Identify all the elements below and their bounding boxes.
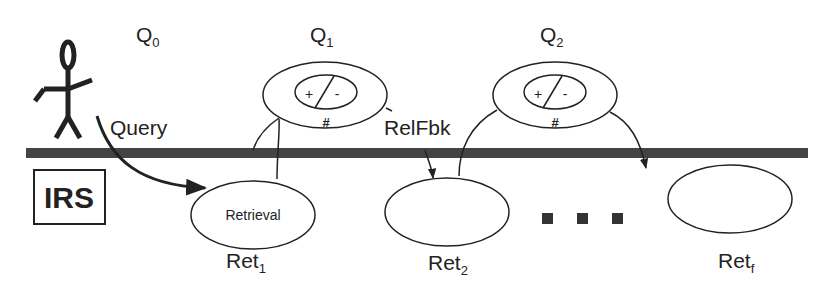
connector-ret2-to-q2	[459, 110, 497, 176]
stick-figure-user-icon	[35, 42, 92, 138]
svg-text:Retrieval: Retrieval	[225, 207, 280, 223]
feedback-node-1: + - #	[263, 62, 387, 130]
query-label-q0: Q0	[136, 23, 160, 50]
ret-label-1: Ret1	[226, 249, 266, 276]
svg-text:-: -	[335, 86, 340, 102]
svg-text:#: #	[551, 115, 559, 130]
feedback-node-2: + - #	[493, 62, 617, 130]
irs-label: IRS	[44, 181, 94, 214]
diagram-canvas: Q0 Q1 Q2 Query IRS + - # + - # RelFbk	[0, 0, 831, 290]
ret-label-f: Retf	[718, 249, 755, 276]
svg-text:Q2: Q2	[540, 23, 564, 50]
svg-text:Retf: Retf	[718, 249, 755, 276]
connector-ret1-to-q1-upper	[253, 118, 279, 150]
query-edge-label: Query	[110, 116, 168, 139]
retrieval-node-2	[385, 178, 509, 246]
relfbk-edge-label: RelFbk	[384, 116, 451, 139]
ret-label-2: Ret2	[428, 251, 468, 278]
svg-text:+: +	[534, 86, 542, 102]
retrieval-node-f	[668, 165, 792, 233]
retrieval-node-1: Retrieval	[191, 181, 315, 249]
svg-text:#: #	[322, 115, 330, 130]
connector-q2-to-retf	[610, 112, 646, 168]
svg-text:Ret1: Ret1	[226, 249, 266, 276]
query-label-q2: Q2	[540, 23, 564, 50]
svg-text:-: -	[563, 86, 568, 102]
svg-text:Ret2: Ret2	[428, 251, 468, 278]
ellipsis-squares	[542, 213, 623, 224]
svg-text:+: +	[305, 86, 313, 102]
svg-text:Q1: Q1	[310, 23, 334, 50]
query-label-q1: Q1	[310, 23, 334, 50]
svg-text:Q0: Q0	[136, 23, 160, 50]
system-boundary-bar	[26, 148, 808, 158]
